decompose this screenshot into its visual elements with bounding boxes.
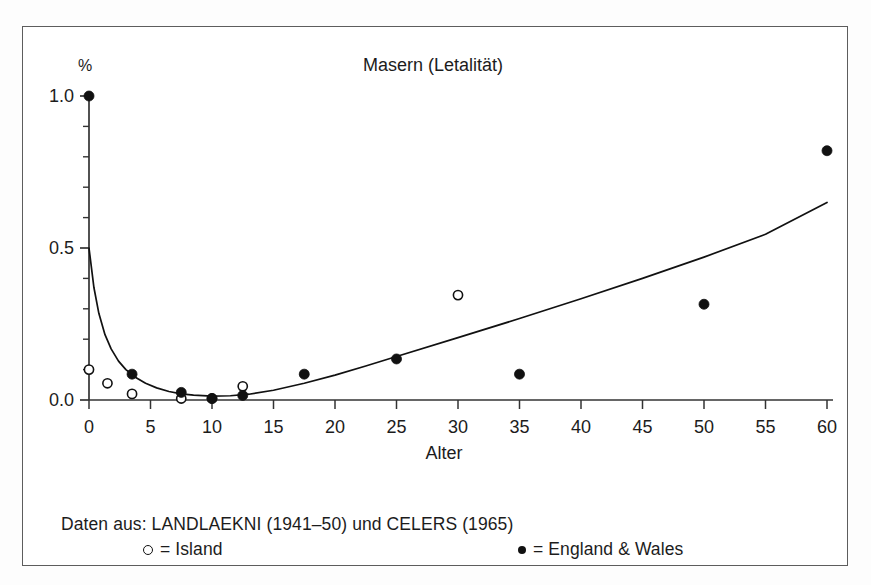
data-point-england-wales	[699, 299, 709, 309]
figure-root: Masern (Letalität)%Alter0.00.51.00510152…	[0, 0, 871, 585]
x-axis-tick-label: 35	[509, 417, 529, 437]
data-point-island	[103, 379, 112, 388]
data-point-island	[84, 365, 93, 374]
x-axis-tick-label: 10	[202, 417, 222, 437]
x-axis-tick-label: 5	[145, 417, 155, 437]
data-point-england-wales	[299, 369, 309, 379]
data-point-england-wales	[392, 354, 402, 364]
data-point-island	[453, 291, 462, 300]
x-axis-tick-label: 25	[386, 417, 406, 437]
x-axis-tick-label: 0	[84, 417, 94, 437]
legend-entry-island: = Island	[143, 539, 223, 560]
figure-frame: Masern (Letalität)%Alter0.00.51.00510152…	[22, 26, 848, 566]
legend-label-england-wales: = England & Wales	[533, 539, 683, 560]
legend-entry-england-wales: = England & Wales	[518, 539, 683, 560]
caption-data-source: Daten aus: LANDLAEKNI (1941–50) und CELE…	[61, 514, 513, 535]
data-point-england-wales	[822, 146, 832, 156]
chart-title: Masern (Letalität)	[363, 55, 503, 75]
y-axis-unit-label: %	[78, 57, 92, 74]
legend-label-island: = Island	[160, 539, 223, 560]
data-point-england-wales	[515, 369, 525, 379]
open-circle-icon	[143, 545, 153, 555]
data-point-island	[238, 382, 247, 391]
y-axis-tick-label: 1.0	[49, 86, 74, 106]
y-axis-tick-label: 0.5	[49, 238, 74, 258]
data-point-island	[127, 389, 136, 398]
x-axis-tick-label: 30	[448, 417, 468, 437]
data-point-england-wales	[207, 393, 217, 403]
x-axis-tick-label: 55	[755, 417, 775, 437]
x-axis-tick-label: 45	[632, 417, 652, 437]
data-point-england-wales	[84, 91, 94, 101]
data-point-england-wales	[176, 387, 186, 397]
chart-canvas: Masern (Letalität)%Alter0.00.51.00510152…	[23, 27, 849, 567]
x-axis-tick-label: 20	[325, 417, 345, 437]
data-point-england-wales	[127, 369, 137, 379]
y-axis-tick-label: 0.0	[49, 390, 74, 410]
filled-circle-icon	[518, 546, 526, 554]
x-axis-tick-label: 60	[817, 417, 837, 437]
x-axis-tick-label: 40	[571, 417, 591, 437]
x-axis-tick-label: 50	[694, 417, 714, 437]
x-axis-label: Alter	[425, 443, 462, 463]
x-axis-tick-label: 15	[263, 417, 283, 437]
data-point-england-wales	[238, 390, 248, 400]
